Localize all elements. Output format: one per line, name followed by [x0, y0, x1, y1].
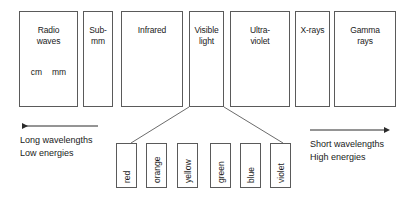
band-label: X-rays [296, 25, 329, 36]
color-label: green [216, 161, 225, 183]
color-box-orange[interactable]: orange [146, 143, 167, 188]
caption-long-wavelengths: Long wavelengths Low energies [20, 134, 140, 159]
band-label: Gamma rays [335, 25, 395, 46]
band-box-radio-waves[interactable]: Radio waves cm mm [19, 11, 78, 107]
band-box-gamma-rays[interactable]: Gamma rays [334, 11, 396, 107]
band-label: Sub- mm [84, 25, 112, 46]
band-label: Visible light [190, 25, 223, 46]
caption-short-wavelengths: Short wavelengths High energies [310, 138, 412, 163]
color-label: blue [246, 167, 255, 183]
leader-line-visible-to-violet [224, 107, 283, 143]
color-box-blue[interactable]: blue [240, 143, 261, 188]
band-box-ultraviolet[interactable]: Ultra- violet [230, 11, 290, 107]
band-box-visible-light[interactable]: Visible light [189, 11, 224, 107]
color-label: orange [152, 157, 161, 183]
band-label: Infrared [122, 25, 182, 36]
color-label: red [122, 171, 131, 183]
band-label: Radio waves [20, 25, 77, 46]
unit-mm: mm [52, 67, 66, 77]
color-box-violet[interactable]: violet [270, 143, 291, 188]
band-box-x-rays[interactable]: X-rays [295, 11, 330, 107]
color-label: violet [276, 163, 285, 183]
band-label: Ultra- violet [231, 25, 289, 46]
color-box-yellow[interactable]: yellow [177, 143, 198, 188]
unit-cm: cm [31, 67, 42, 77]
color-label: yellow [183, 159, 192, 183]
band-units: cm mm [20, 67, 77, 77]
band-box-infrared[interactable]: Infrared [121, 11, 183, 107]
em-spectrum-diagram: Radio waves cm mm Sub- mm Infrared Visib… [0, 0, 412, 197]
color-box-green[interactable]: green [210, 143, 231, 188]
band-box-sub-mm[interactable]: Sub- mm [83, 11, 113, 107]
